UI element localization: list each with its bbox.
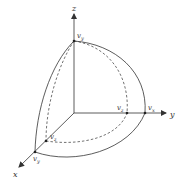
inner-arc-xy <box>46 113 127 142</box>
z-axis-label: z <box>71 4 77 13</box>
label-top: vy <box>77 32 84 42</box>
outer-arc-zy <box>74 41 145 113</box>
label-y-inner: vz <box>117 104 124 113</box>
y-axis-label: y <box>169 110 175 119</box>
x-axis-label: x <box>13 170 18 179</box>
label-y-outer: vx <box>148 104 155 113</box>
point-y-inner <box>126 112 129 115</box>
point-x-inner <box>45 140 48 143</box>
point-top <box>73 40 76 43</box>
label-x-inner: vz <box>50 133 57 142</box>
octant-diagram: z y x vy vz vx vz vy <box>0 0 188 184</box>
inner-arc-zy <box>74 41 127 113</box>
inner-arc-zx <box>46 41 74 141</box>
point-x-outer <box>34 151 37 154</box>
point-y-outer <box>144 112 147 115</box>
label-x-outer: vy <box>33 155 40 165</box>
